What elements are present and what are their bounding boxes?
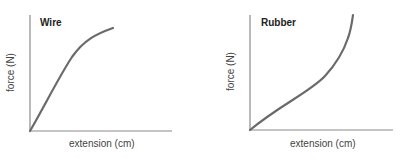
wire-title: Wire	[40, 17, 62, 28]
rubber-x-label: extension (cm)	[290, 138, 356, 149]
wire-curve	[30, 28, 113, 131]
wire-x-label: extension (cm)	[69, 138, 135, 149]
wire-y-label: force (N)	[5, 53, 16, 92]
rubber-chart: Rubber force (N) extension (cm)	[220, 0, 405, 159]
rubber-plot	[220, 0, 405, 159]
rubber-title: Rubber	[261, 17, 296, 28]
rubber-y-label: force (N)	[225, 52, 236, 91]
wire-plot	[0, 0, 202, 159]
rubber-curve	[250, 15, 353, 130]
wire-chart: Wire force (N) extension (cm)	[0, 0, 202, 159]
